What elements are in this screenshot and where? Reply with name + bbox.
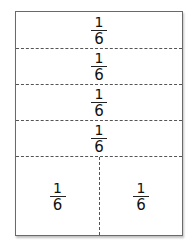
- denominator: 6: [94, 104, 104, 118]
- denominator: 6: [136, 198, 146, 212]
- part-4: 1 6: [16, 121, 182, 156]
- denominator: 6: [94, 32, 104, 46]
- fraction: 1 6: [91, 123, 107, 154]
- denominator: 6: [53, 198, 63, 212]
- part-5: 1 6: [16, 157, 99, 235]
- numerator: 1: [95, 51, 104, 65]
- numerator: 1: [95, 15, 104, 29]
- fraction: 1 6: [91, 51, 107, 82]
- denominator: 6: [94, 140, 104, 154]
- numerator: 1: [137, 181, 146, 195]
- numerator: 1: [95, 123, 104, 137]
- part-3: 1 6: [16, 85, 182, 120]
- fraction: 1 6: [91, 87, 107, 118]
- denominator: 6: [94, 68, 104, 82]
- part-1: 1 6: [16, 12, 182, 48]
- fraction: 1 6: [91, 15, 107, 46]
- whole-rectangle: 1 6 1 6 1 6 1 6 1 6: [15, 11, 183, 236]
- fraction: 1 6: [133, 181, 149, 212]
- part-6: 1 6: [100, 157, 182, 235]
- numerator: 1: [95, 87, 104, 101]
- part-2: 1 6: [16, 49, 182, 84]
- fraction: 1 6: [50, 181, 66, 212]
- numerator: 1: [53, 181, 62, 195]
